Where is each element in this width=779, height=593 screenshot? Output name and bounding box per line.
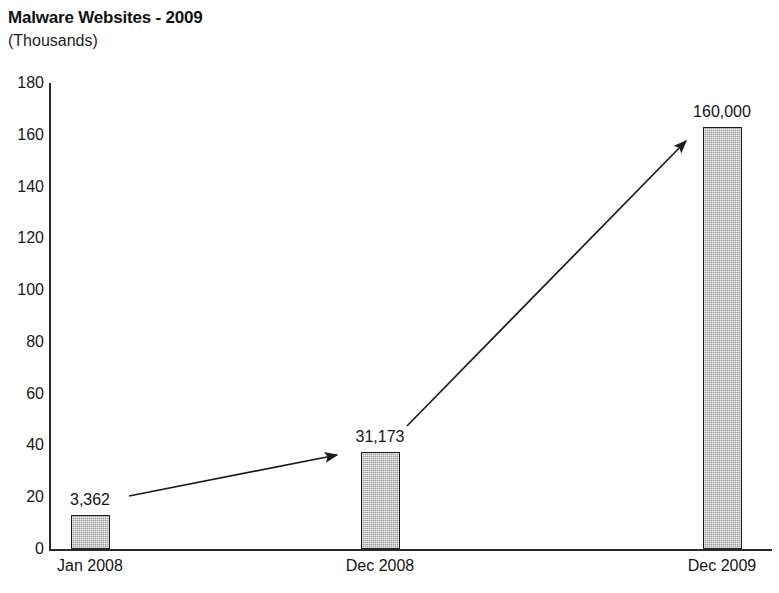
y-tick-label-0: 0 xyxy=(2,540,44,558)
y-tick-label-40: 40 xyxy=(2,436,44,454)
y-tick-label-140: 140 xyxy=(2,178,44,196)
y-tick-label-60: 60 xyxy=(2,385,44,403)
x-axis-line xyxy=(49,549,772,551)
y-axis-tick-labels: 020406080100120140160180 xyxy=(0,0,44,593)
y-tick-label-160: 160 xyxy=(2,126,44,144)
bar-value-label-dec-2009: 160,000 xyxy=(693,103,751,121)
growth-arrow-1 xyxy=(129,455,337,496)
bar-value-label-jan-2008: 3,362 xyxy=(70,491,110,509)
malware-websites-chart: Malware Websites - 2009 (Thousands) 0204… xyxy=(0,0,779,593)
growth-arrow-2 xyxy=(407,141,686,426)
bar-value-label-dec-2008: 31,173 xyxy=(356,428,405,446)
bar-dec-2008 xyxy=(361,452,400,549)
bar-dec-2009 xyxy=(703,127,742,549)
y-axis-line xyxy=(49,83,51,551)
y-tick-label-20: 20 xyxy=(2,488,44,506)
y-tick-label-100: 100 xyxy=(2,281,44,299)
x-label-dec-2009: Dec 2009 xyxy=(688,557,757,575)
x-label-dec-2008: Dec 2008 xyxy=(346,557,415,575)
y-tick-label-120: 120 xyxy=(2,229,44,247)
x-label-jan-2008: Jan 2008 xyxy=(57,557,123,575)
y-tick-label-180: 180 xyxy=(2,74,44,92)
y-tick-label-80: 80 xyxy=(2,333,44,351)
bar-jan-2008 xyxy=(71,515,110,549)
